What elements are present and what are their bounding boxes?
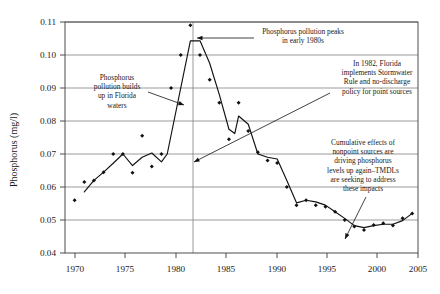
data-point [188, 23, 192, 27]
annotation-arrowhead [194, 158, 200, 162]
x-tick-marks [75, 253, 418, 258]
x-tick-label: 1980 [167, 264, 186, 274]
y-tick-label: 0.04 [40, 248, 56, 258]
data-point [208, 78, 212, 82]
data-point [227, 137, 231, 141]
y-tick-labels: 0.11 0.10 0.09 0.08 0.07 0.06 0.05 0.04 [40, 17, 56, 258]
nonpoint-sources-annotation: Cumulative effects ofnonpoint sources ar… [327, 138, 399, 193]
data-point [198, 53, 202, 57]
data-point [179, 53, 183, 57]
data-point [169, 86, 173, 90]
annotation-arrowhead [197, 36, 203, 40]
data-point [304, 198, 308, 202]
data-point [314, 203, 318, 207]
peak-annotation: Phosphorus pollution peaksin early 1980s [262, 27, 344, 45]
annotation-arrow [345, 197, 366, 239]
y-tick-label: 0.06 [40, 182, 56, 192]
x-tick-label: 2005 [409, 264, 428, 274]
annotation-texts: Phosphorus pollution peaksin early 1980s… [94, 27, 413, 193]
annotation-arrow [194, 93, 330, 162]
y-tick-label: 0.11 [40, 17, 56, 27]
y-tick-marks [60, 22, 65, 253]
data-point [111, 152, 115, 156]
data-point [266, 159, 270, 163]
x-tick-label: 1985 [217, 264, 236, 274]
stormwater-rule-annotation: In 1982, Floridaimplements StormwaterRul… [342, 59, 413, 96]
data-point [140, 134, 144, 138]
y-tick-label: 0.07 [40, 149, 56, 159]
y-tick-label: 0.08 [40, 116, 56, 126]
y-tick-label: 0.09 [40, 83, 56, 93]
buildup-annotation: Phosphoruspollution buildsup in Floridaw… [94, 73, 141, 110]
data-point [362, 228, 366, 232]
chart-canvas: Phosphorus (mg/l) 0.11 [0, 0, 440, 294]
data-point [159, 152, 163, 156]
x-tick-labels: 1970 1975 1980 1985 1990 1995 2000 2005 [66, 264, 428, 274]
x-tick-label: 1975 [116, 264, 135, 274]
y-axis-title: Phosphorus (mg/l) [8, 113, 20, 187]
data-point [237, 101, 241, 105]
annotation-arrowhead [345, 233, 349, 239]
y-tick-label: 0.05 [40, 215, 56, 225]
x-tick-label: 1970 [66, 264, 85, 274]
data-point [294, 203, 298, 207]
data-point [150, 165, 154, 169]
data-point [323, 205, 327, 209]
data-point [285, 185, 289, 189]
data-point [82, 180, 86, 184]
data-point [73, 198, 77, 202]
y-tick-label: 0.10 [40, 50, 56, 60]
phosphorus-trend-chart: Phosphorus (mg/l) 0.11 [0, 0, 440, 294]
scatter-points [73, 23, 415, 232]
x-tick-label: 1995 [318, 264, 337, 274]
data-point [343, 218, 347, 222]
annotation-arrowhead [178, 101, 184, 105]
data-point [131, 171, 135, 175]
x-tick-label: 2000 [368, 264, 387, 274]
x-tick-label: 1990 [268, 264, 287, 274]
